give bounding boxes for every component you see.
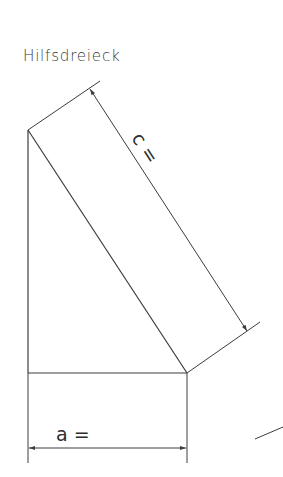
extension-line-c-bottom — [187, 322, 260, 373]
label-c: c = — [128, 128, 164, 167]
dimension-line-c — [90, 89, 247, 331]
extension-line-c-top — [28, 81, 100, 130]
label-a: a = — [56, 423, 90, 445]
auxiliary-triangle-drawing: c = a = — [0, 0, 283, 477]
triangle-hypotenuse — [28, 130, 187, 373]
partial-line-right — [255, 427, 283, 439]
